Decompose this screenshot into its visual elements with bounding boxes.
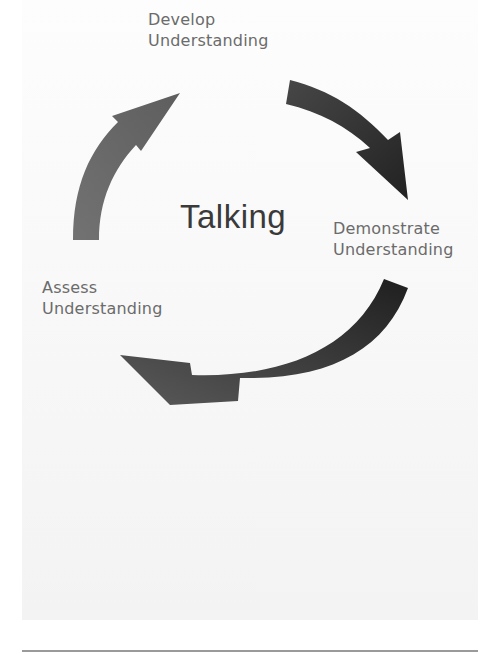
stage-demonstrate-label: Demonstrate Understanding <box>333 218 453 260</box>
stage-demonstrate-line2: Understanding <box>333 239 453 260</box>
center-label: Talking <box>180 198 286 236</box>
arrow-demonstrate-to-assess-icon <box>120 279 408 405</box>
arrow-assess-to-develop-icon <box>73 93 180 240</box>
stage-develop-label: Develop Understanding <box>148 9 268 51</box>
stage-assess-line1: Assess <box>42 277 162 298</box>
stage-develop-line2: Understanding <box>148 30 268 51</box>
arrow-develop-to-demonstrate-icon <box>286 80 408 200</box>
divider <box>22 650 478 652</box>
stage-develop-line1: Develop <box>148 9 268 30</box>
cycle-arrows <box>0 0 499 654</box>
stage-assess-label: Assess Understanding <box>42 277 162 319</box>
stage-assess-line2: Understanding <box>42 298 162 319</box>
stage-demonstrate-line1: Demonstrate <box>333 218 453 239</box>
